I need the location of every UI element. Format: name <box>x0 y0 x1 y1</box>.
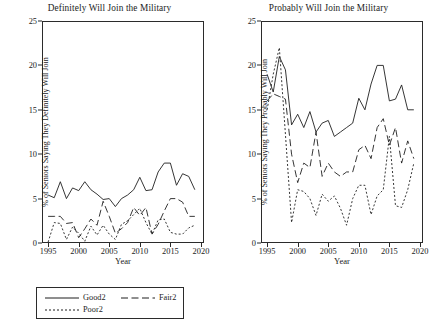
legend-label: Poor2 <box>83 305 103 314</box>
y-tick-label: 0 <box>17 239 37 248</box>
series-line-good <box>267 57 414 137</box>
y-tick-label: 0 <box>236 239 256 248</box>
legend-line-swatch-dotted <box>45 307 79 313</box>
panel-probably: Probably Will Join the Military 05101520… <box>219 0 438 334</box>
series-line-good2 <box>48 163 195 207</box>
x-tick-label: 2020 <box>193 247 210 256</box>
x-axis-title: Year <box>261 256 423 266</box>
y-tick-label: 15 <box>17 105 37 114</box>
x-tick-label: 2010 <box>350 247 367 256</box>
plot-area-probably: 0510152025 199520002005201020152020 % of… <box>261 21 423 243</box>
legend-line-swatch-solid <box>45 295 79 301</box>
legend-line-swatch-dashed <box>121 295 155 301</box>
x-tick-label: 2015 <box>381 247 398 256</box>
series-line-fair <box>267 94 414 183</box>
page-title: Probably Will Join the Military <box>219 3 438 13</box>
legend-item-poor2[interactable]: Poor2 <box>45 305 103 314</box>
y-tick-label: 5 <box>236 194 256 203</box>
plot-area-definitely: 0510152025 199520002005201020152020 % of… <box>42 21 204 243</box>
x-tick-label: 2015 <box>162 247 179 256</box>
series-line-poor2 <box>48 208 195 242</box>
x-tick-label: 2020 <box>412 247 429 256</box>
x-tick-label: 2005 <box>101 247 118 256</box>
series-line-poor <box>267 48 414 226</box>
figure-panel-pair: Definitely Will Join the Military 051015… <box>0 0 438 334</box>
legend-item-good2[interactable]: Good2 <box>45 293 106 302</box>
y-axis-title: % of Seniors Saying They Probably Will J… <box>260 21 274 243</box>
x-tick-label: 1995 <box>259 247 276 256</box>
panel-definitely: Definitely Will Join the Military 051015… <box>0 0 219 334</box>
y-tick-label: 10 <box>17 150 37 159</box>
y-tick-label: 25 <box>17 17 37 26</box>
legend-label: Fair2 <box>159 293 177 302</box>
x-tick-label: 1995 <box>40 247 57 256</box>
y-tick-label: 20 <box>236 61 256 70</box>
x-tick-label: 2000 <box>70 247 87 256</box>
legend-item-fair2[interactable]: Fair2 <box>121 293 177 302</box>
y-axis-title: % of Seniors Saying They Definitely Will… <box>41 21 55 243</box>
x-axis-title: Year <box>42 256 204 266</box>
x-tick-label: 2000 <box>289 247 306 256</box>
legend-definitely: Good2Fair2Poor2 <box>36 287 184 319</box>
plot-lines-definitely <box>42 21 204 243</box>
x-tick-label: 2010 <box>131 247 148 256</box>
y-tick-label: 20 <box>17 61 37 70</box>
plot-lines-probably <box>261 21 423 243</box>
x-tick-label: 2005 <box>320 247 337 256</box>
y-tick-label: 15 <box>236 105 256 114</box>
page-title: Definitely Will Join the Military <box>0 3 219 13</box>
legend-label: Good2 <box>83 293 106 302</box>
y-tick-label: 5 <box>17 194 37 203</box>
y-tick-label: 25 <box>236 17 256 26</box>
y-tick-label: 10 <box>236 150 256 159</box>
